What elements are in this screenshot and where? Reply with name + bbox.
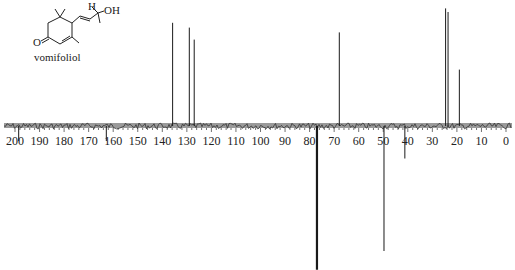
x-tick-label: 100 — [252, 134, 270, 148]
x-tick-label: 80 — [304, 134, 316, 148]
vomifoliol-structure — [41, 7, 104, 44]
x-tick-label: 40 — [402, 134, 414, 148]
x-tick-label: 180 — [55, 134, 73, 148]
x-tick-label: 150 — [129, 134, 147, 148]
x-tick-label: 90 — [279, 134, 291, 148]
x-tick-label: 140 — [153, 134, 171, 148]
compound-name: vomifoliol — [34, 51, 80, 63]
x-tick-label: 190 — [31, 134, 49, 148]
x-tick-label: 10 — [475, 134, 487, 148]
structure-o-label: O — [33, 36, 41, 48]
x-tick-label: 50 — [377, 134, 389, 148]
baseline — [4, 123, 512, 129]
x-tick-label: 200 — [6, 134, 24, 148]
x-tick-label: 120 — [202, 134, 220, 148]
structure-h-label: H — [88, 0, 96, 12]
x-tick-label: 0 — [503, 134, 509, 148]
x-tick-label: 170 — [80, 134, 98, 148]
x-tick-label: 110 — [227, 134, 245, 148]
nmr-spectrum-chart: H OH O vomifoliol 2001901801701601501401… — [0, 0, 515, 270]
x-tick-label: 20 — [451, 134, 463, 148]
x-tick-label: 160 — [104, 134, 122, 148]
x-tick-label: 130 — [178, 134, 196, 148]
x-tick-label: 60 — [353, 134, 365, 148]
x-tick-label: 70 — [328, 134, 340, 148]
structure-oh-label: OH — [104, 4, 120, 16]
x-axis: 2001901801701601501401301201101009080706… — [6, 128, 509, 148]
x-tick-label: 30 — [426, 134, 438, 148]
